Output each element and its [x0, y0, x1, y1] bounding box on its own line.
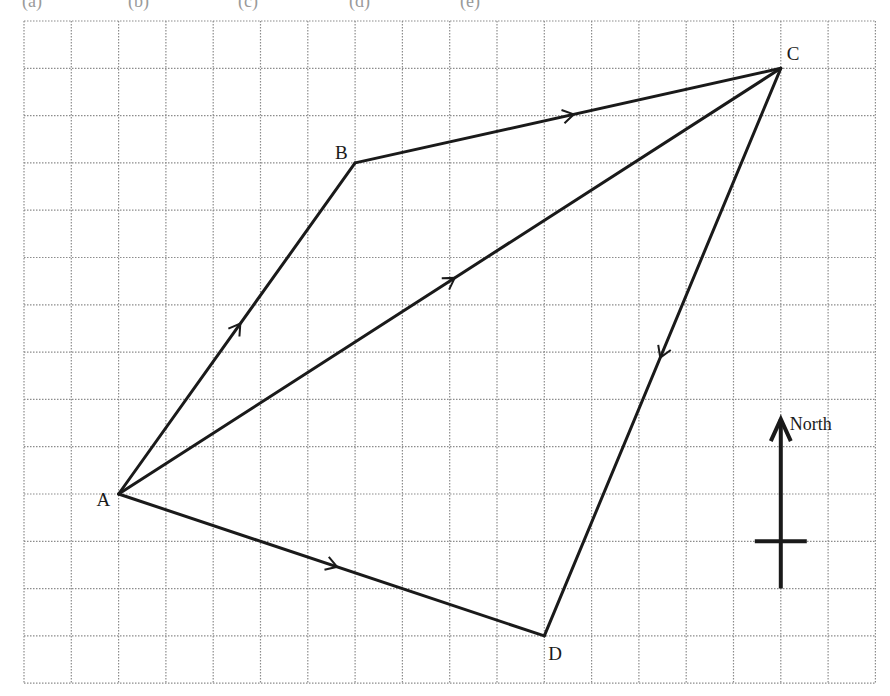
- vector-BC: [355, 68, 781, 163]
- point-label-a: A: [97, 490, 111, 509]
- point-label-c: C: [787, 44, 800, 63]
- vector-AD: [119, 494, 545, 636]
- north-label: North: [790, 415, 832, 433]
- north-arrow-icon: [755, 419, 807, 589]
- grid-paper: [24, 21, 875, 683]
- vector-AB: [119, 163, 356, 494]
- vector-diagram: [0, 0, 890, 696]
- point-label-d: D: [548, 644, 562, 663]
- point-label-b: B: [335, 143, 348, 162]
